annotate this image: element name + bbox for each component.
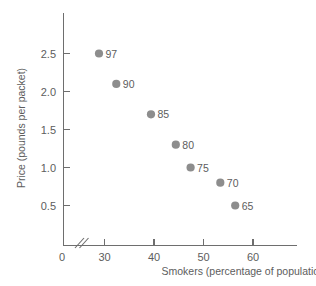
y-tick-marks	[64, 54, 71, 206]
data-point-labels: 97 90 85 80 75 70 65	[106, 48, 254, 212]
y-tick-label-4: 2.5	[41, 48, 56, 60]
y-tick-label-3: 2.0	[41, 86, 56, 98]
y-tick-label-1: 1.0	[41, 162, 56, 174]
x-origin-label: 0	[59, 251, 65, 263]
data-point-marker[interactable]	[187, 163, 195, 171]
data-point-label: 90	[123, 78, 135, 90]
data-point-marker[interactable]	[95, 49, 103, 57]
data-point-marker[interactable]	[172, 141, 180, 149]
data-points	[95, 49, 239, 209]
x-tick-label-0: 30	[98, 251, 110, 263]
axis-break-icon	[75, 238, 89, 248]
y-tick-label-2: 1.5	[41, 124, 56, 136]
data-point-label: 75	[197, 162, 209, 174]
data-point-label: 85	[158, 108, 170, 120]
x-tick-marks	[105, 239, 254, 246]
x-axis-title: Smokers (percentage of population)	[162, 265, 316, 277]
x-tick-label-3: 60	[247, 251, 259, 263]
y-axis-title: Price (pounds per packet)	[15, 68, 27, 188]
x-tick-label-2: 50	[197, 251, 209, 263]
data-point-marker[interactable]	[231, 201, 239, 209]
plot-area: 0.5 1.0 1.5 2.0 2.5 0 30 40 50 60 Smoker…	[0, 0, 316, 286]
data-point-marker[interactable]	[112, 80, 120, 88]
data-point-label: 65	[242, 200, 254, 212]
x-tick-label-1: 40	[148, 251, 160, 263]
scatter-chart: 0.5 1.0 1.5 2.0 2.5 0 30 40 50 60 Smoker…	[0, 0, 316, 286]
data-point-marker[interactable]	[147, 110, 155, 118]
data-point-label: 97	[106, 48, 118, 60]
data-point-label: 80	[182, 139, 194, 151]
data-point-marker[interactable]	[216, 179, 224, 187]
y-tick-label-0: 0.5	[41, 200, 56, 212]
data-point-label: 70	[227, 177, 239, 189]
